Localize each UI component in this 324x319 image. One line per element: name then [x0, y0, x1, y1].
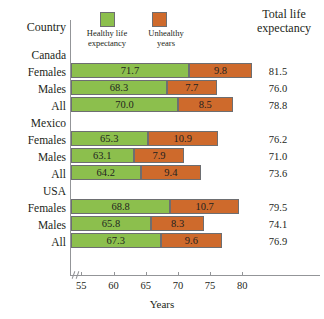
group-label-mexico: Mexico [0, 117, 66, 129]
row-label-all: All [0, 236, 66, 248]
total-life-expectancy-value: 74.1 [250, 219, 306, 230]
total-life-expectancy-value: 76.9 [250, 236, 306, 247]
total-life-expectancy-value: 76.0 [250, 83, 306, 94]
bar-segment-healthy: 65.3 [71, 131, 148, 146]
bar-value-healthy: 71.7 [72, 64, 188, 77]
bar-value-unhealthy: 7.9 [135, 149, 184, 162]
legend-label-healthy: Healthy life expectancy [72, 29, 142, 48]
x-axis-tick-label: 70 [163, 280, 193, 291]
bar-value-healthy: 68.3 [72, 81, 166, 94]
total-life-expectancy-value: 78.8 [250, 100, 306, 111]
x-axis-tick [146, 272, 147, 276]
legend-swatch-unhealthy [152, 12, 167, 27]
total-life-expectancy-value: 81.5 [250, 66, 306, 77]
bar-segment-healthy: 68.3 [71, 80, 167, 95]
bar-value-healthy: 70.0 [72, 98, 177, 111]
bar-value-healthy: 68.8 [72, 200, 169, 213]
total-life-expectancy-value: 79.5 [250, 202, 306, 213]
bar-value-unhealthy: 8.5 [179, 98, 232, 111]
legend-label-unhealthy: Unhealthy years [140, 29, 192, 48]
x-axis-line [70, 275, 320, 276]
x-axis-tick [242, 272, 243, 276]
x-axis-tick-label: 75 [195, 280, 225, 291]
x-axis-tick-label: 60 [99, 280, 129, 291]
bar-value-healthy: 64.2 [72, 166, 140, 179]
bar-segment-unhealthy: 10.7 [170, 199, 239, 214]
bar-segment-healthy: 68.8 [71, 199, 170, 214]
x-axis-tick-label: 65 [131, 280, 161, 291]
bar-segment-unhealthy: 9.4 [141, 165, 202, 180]
bar-segment-unhealthy: 9.6 [161, 233, 223, 248]
bar-segment-unhealthy: 9.8 [189, 63, 252, 78]
bar-segment-healthy: 63.1 [71, 148, 134, 163]
row-label-males: Males [0, 151, 66, 163]
row-label-all: All [0, 168, 66, 180]
bar-segment-unhealthy: 10.9 [148, 131, 218, 146]
row-label-all: All [0, 100, 66, 112]
x-axis-title: Years [132, 299, 192, 310]
bar-segment-healthy: 71.7 [71, 63, 189, 78]
bar-value-unhealthy: 8.3 [152, 217, 204, 230]
row-label-females: Females [0, 66, 66, 78]
bar-value-healthy: 65.8 [72, 217, 150, 230]
row-label-males: Males [0, 83, 66, 95]
bar-segment-unhealthy: 8.3 [151, 216, 205, 231]
bar-segment-healthy: 67.3 [71, 233, 161, 248]
group-label-canada: Canada [0, 49, 66, 61]
x-axis-tick-label: 55 [66, 280, 96, 291]
legend-swatch-healthy [100, 12, 115, 27]
bar-value-healthy: 67.3 [72, 234, 160, 247]
total-life-expectancy-value: 71.0 [250, 151, 306, 162]
x-axis-tick [210, 272, 211, 276]
bar-segment-healthy: 65.8 [71, 216, 151, 231]
group-label-usa: USA [0, 185, 66, 197]
x-axis-tick [81, 272, 82, 276]
x-axis-tick-label: 80 [227, 280, 257, 291]
row-label-females: Females [0, 202, 66, 214]
x-axis-tick [178, 272, 179, 276]
column-header-total-life-expectancy: Total life expectancy [248, 8, 320, 35]
bar-segment-healthy: 64.2 [71, 165, 141, 180]
row-label-females: Females [0, 134, 66, 146]
bar-segment-healthy: 70.0 [71, 97, 178, 112]
bar-value-healthy: 63.1 [72, 149, 133, 162]
total-life-expectancy-value: 73.6 [250, 168, 306, 179]
row-label-males: Males [0, 219, 66, 231]
bar-value-healthy: 65.3 [72, 132, 147, 145]
bar-value-unhealthy: 7.7 [168, 81, 216, 94]
total-life-expectancy-value: 76.2 [250, 134, 306, 145]
bar-value-unhealthy: 10.7 [171, 200, 238, 213]
x-axis-tick [114, 272, 115, 276]
bar-value-unhealthy: 9.6 [162, 234, 222, 247]
column-header-country: Country [4, 22, 66, 33]
bar-value-unhealthy: 9.8 [190, 64, 251, 77]
bar-value-unhealthy: 9.4 [142, 166, 201, 179]
bar-value-unhealthy: 10.9 [149, 132, 217, 145]
bar-segment-unhealthy: 7.7 [167, 80, 217, 95]
bar-segment-unhealthy: 8.5 [178, 97, 233, 112]
life-expectancy-chart: Country Total life expectancy Healthy li… [0, 0, 324, 319]
bar-segment-unhealthy: 7.9 [134, 148, 185, 163]
